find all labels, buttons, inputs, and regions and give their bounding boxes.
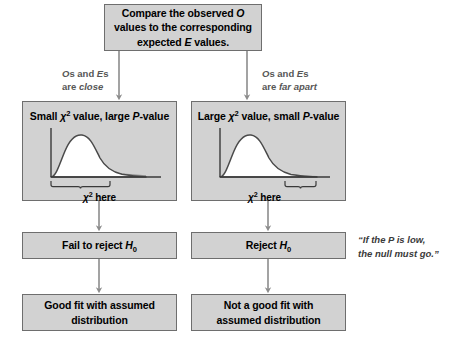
reject-text: Reject H0 — [192, 238, 345, 252]
small-chi-plot — [34, 124, 166, 198]
branch-right-line-2: are far apart — [262, 81, 317, 92]
small-chi-square-box[interactable]: Small χ2 value, large P-value χ2 here — [22, 101, 177, 201]
large-chi-curve — [220, 135, 317, 177]
compare-observed-expected-box[interactable]: Compare the observed O values to the cor… — [104, 4, 262, 51]
good-fit-line-1: Good fit with assumed — [44, 299, 155, 311]
compare-line-1: Compare the observed O — [122, 7, 245, 19]
not-good-fit-line-2: assumed distribution — [216, 314, 320, 326]
compare-box-text: Compare the observed O values to the cor… — [105, 6, 261, 49]
quote-line-1: “If the P is low, — [358, 234, 425, 245]
fail-to-reject-text: Fail to reject H0 — [23, 238, 176, 252]
compare-line-3: expected E values. — [137, 36, 229, 48]
fail-to-reject-box[interactable]: Fail to reject H0 — [22, 232, 177, 259]
good-fit-line-2: distribution — [71, 314, 128, 326]
large-chi-bracket-label: χ2 here — [248, 191, 338, 205]
small-chi-bracket-label: χ2 here — [23, 191, 176, 205]
branch-label-left: Os and Es are close — [62, 68, 108, 94]
small-chi-bracket — [51, 181, 110, 189]
branch-left-line-1: Os and Es — [62, 68, 108, 79]
compare-line-2: values to the corresponding — [114, 21, 252, 33]
branch-right-line-1: Os and Es — [262, 68, 308, 79]
large-chi-here-text: here — [260, 192, 281, 203]
reject-box[interactable]: Reject H0 — [191, 232, 346, 259]
large-chi-bracket — [285, 181, 316, 189]
large-chi-plot — [203, 124, 335, 198]
small-chi-curve — [51, 135, 146, 177]
good-fit-box[interactable]: Good fit with assumed distribution — [22, 294, 177, 331]
mnemonic-quote: “If the P is low, the null must go.” — [358, 233, 454, 261]
small-chi-here-text: here — [95, 192, 116, 203]
branch-left-line-2: are close — [62, 81, 103, 92]
good-fit-text: Good fit with assumed distribution — [23, 298, 176, 326]
not-good-fit-text: Not a good fit with assumed distribution — [192, 298, 345, 326]
not-good-fit-line-1: Not a good fit with — [224, 299, 314, 311]
not-good-fit-box[interactable]: Not a good fit with assumed distribution — [191, 294, 346, 331]
large-chi-square-box[interactable]: Large χ2 value, small P-value χ2 here — [191, 101, 346, 201]
small-chi-title: Small χ2 value, large P-value — [23, 109, 176, 123]
connector-split — [119, 51, 247, 64]
large-chi-title: Large χ2 value, small P-value — [192, 109, 345, 123]
quote-line-2: the null must go.” — [358, 248, 439, 259]
branch-label-right: Os and Es are far apart — [262, 68, 317, 94]
